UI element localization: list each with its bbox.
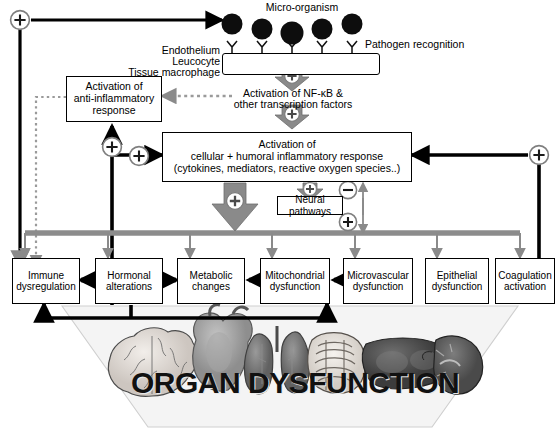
outcome-metabolic-line2: changes bbox=[190, 281, 233, 292]
outcome-box-coagulation[interactable]: Coagulation activation bbox=[495, 258, 555, 304]
micro-organism-dot bbox=[281, 22, 304, 45]
outcome-hormonal-line1: Hormonal bbox=[106, 270, 152, 281]
outcome-microvascular-line2: dysfunction bbox=[347, 281, 409, 292]
anti-inflammatory-line3: response bbox=[74, 105, 155, 117]
outcome-box-microvascular[interactable]: Microvascular dysfunction bbox=[343, 258, 413, 304]
pathogen-recognition-label: Pathogen recognition bbox=[365, 39, 505, 51]
outcome-coagulation-line1: Coagulation bbox=[498, 270, 551, 281]
anti-inflammatory-box[interactable]: Activation of anti-inflammatory response bbox=[66, 76, 162, 122]
nfkb-activation-label-line2: other transcription factors bbox=[222, 99, 364, 111]
outcome-epithelial-line2: dysfunction bbox=[432, 281, 483, 292]
micro-organism-dot bbox=[222, 14, 243, 35]
outcome-hormonal-line2: alterations bbox=[106, 281, 152, 292]
micro-organism-dot bbox=[312, 19, 333, 40]
outcome-microvascular-line1: Microvascular bbox=[347, 270, 409, 281]
outcome-box-metabolic[interactable]: Metabolic changes bbox=[177, 258, 245, 304]
outcome-mitochondrial-line1: Mitochondrial bbox=[265, 270, 324, 281]
outcome-immune-line2: dysregulation bbox=[16, 281, 75, 292]
micro-organism-dot bbox=[252, 19, 273, 40]
outcome-immune-line1: Immune bbox=[16, 270, 75, 281]
outcome-mitochondrial-line2: dysfunction bbox=[265, 281, 324, 292]
outcome-metabolic-line1: Metabolic bbox=[190, 270, 233, 281]
outcome-box-mitochondrial[interactable]: Mitochondrial dysfunction bbox=[260, 258, 330, 304]
outcome-epithelial-line1: Epithelial bbox=[432, 270, 483, 281]
micro-organism-label: Micro-organism bbox=[242, 2, 362, 14]
cell-membrane-bar bbox=[222, 53, 380, 75]
micro-organism-dot bbox=[342, 14, 363, 35]
neural-pathways-label: Neural pathways bbox=[278, 194, 342, 216]
outcome-box-epithelial[interactable]: Epithelial dysfunction bbox=[425, 258, 489, 304]
outcome-box-hormonal[interactable]: Hormonal alterations bbox=[95, 258, 163, 304]
diagram-canvas: ORGAN DYSFUNCTION bbox=[0, 0, 559, 431]
outcome-box-immune[interactable]: Immune dysregulation bbox=[12, 258, 80, 304]
outcome-coagulation-line2: activation bbox=[498, 281, 551, 292]
inflammatory-line3: (cytokines, mediators, reactive oxygen s… bbox=[174, 163, 400, 175]
inflammatory-response-box[interactable]: Activation of cellular + humoral inflamm… bbox=[162, 132, 412, 182]
neural-pathways-box[interactable]: Neural pathways bbox=[277, 196, 343, 215]
